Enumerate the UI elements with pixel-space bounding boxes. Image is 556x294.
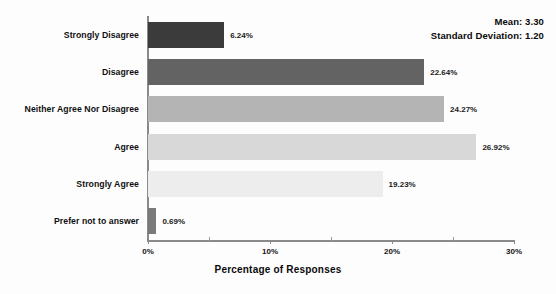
category-label: Agree [114, 142, 139, 152]
bar-value-label: 6.24% [230, 30, 253, 39]
bar: 19.23% [148, 171, 383, 197]
bar-row: Agree26.92% [148, 128, 514, 165]
bar: 0.69% [148, 208, 156, 234]
bar-row: Strongly Disagree6.24% [148, 16, 514, 53]
bar: 6.24% [148, 22, 224, 48]
bar-row: Disagree22.64% [148, 53, 514, 90]
x-tick-major [392, 240, 393, 244]
bar-value-label: 26.92% [482, 142, 509, 151]
category-label: Strongly Disagree [64, 30, 139, 40]
x-tick-minor [209, 237, 210, 241]
plot-area: Strongly Disagree6.24%Disagree22.64%Neit… [148, 16, 514, 240]
x-axis-title: Percentage of Responses [0, 264, 556, 275]
bar: 22.64% [148, 59, 424, 85]
bar-value-label: 19.23% [389, 179, 416, 188]
bar-chart: Mean: 3.30 Standard Deviation: 1.20 Stro… [0, 0, 556, 294]
x-tick-label: 30% [506, 247, 522, 256]
bar-value-label: 24.27% [450, 105, 477, 114]
bar-row: Strongly Agree19.23% [148, 165, 514, 202]
bar-row: Neither Agree Nor Disagree24.27% [148, 91, 514, 128]
category-label: Strongly Agree [76, 179, 139, 189]
x-tick-minor [331, 237, 332, 241]
category-label: Prefer not to answer [54, 216, 139, 226]
x-tick-major [514, 240, 515, 244]
bar-value-label: 0.69% [162, 217, 185, 226]
x-tick-major [148, 240, 149, 244]
bar: 24.27% [148, 96, 444, 122]
bar-value-label: 22.64% [430, 67, 457, 76]
category-label: Disagree [102, 67, 139, 77]
x-tick-label: 10% [262, 247, 278, 256]
bar: 26.92% [148, 134, 476, 160]
bar-row: Prefer not to answer0.69% [148, 203, 514, 240]
category-label: Neither Agree Nor Disagree [25, 104, 139, 114]
x-tick-label: 20% [384, 247, 400, 256]
x-tick-major [270, 240, 271, 244]
x-tick-label: 0% [142, 247, 154, 256]
x-tick-minor [453, 237, 454, 241]
